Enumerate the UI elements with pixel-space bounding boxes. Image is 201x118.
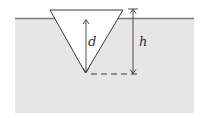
label-h: h — [139, 34, 147, 49]
cone-diagram: d h — [0, 0, 201, 118]
label-d: d — [88, 34, 96, 49]
